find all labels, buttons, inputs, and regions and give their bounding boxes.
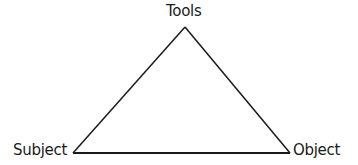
- edge-subject-tools: [73, 27, 185, 153]
- node-label-subject: Subject: [13, 143, 67, 158]
- node-label-tools: Tools: [166, 4, 201, 19]
- node-label-object: Object: [293, 143, 340, 158]
- edge-tools-object: [185, 27, 290, 153]
- activity-triangle-diagram: Tools Subject Object: [0, 0, 358, 165]
